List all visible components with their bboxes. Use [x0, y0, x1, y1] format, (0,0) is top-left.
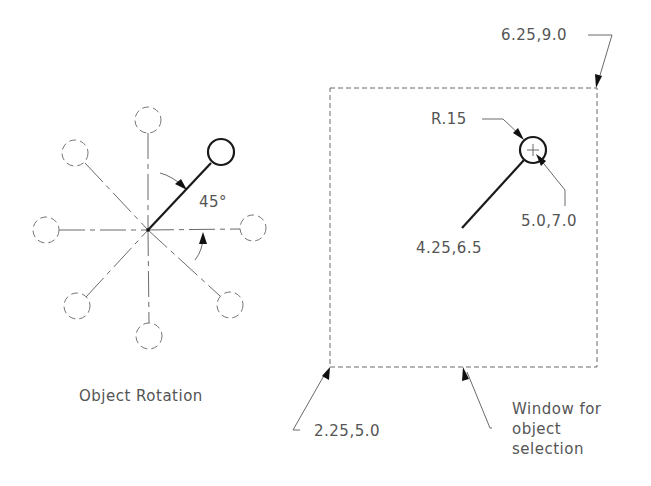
window-label-line-3: selection [512, 440, 584, 458]
leader-top-right [588, 35, 612, 82]
window-label-line-2: object [512, 420, 561, 438]
radius-label: R.15 [431, 110, 467, 128]
arrowhead-icon [322, 367, 330, 380]
rotated-object-circle [208, 139, 234, 165]
window-selection-figure: 6.25,9.0 R.15 5.0,7.0 4.25,6.5 2.25,5.0 … [293, 26, 612, 458]
reference-circle-east [240, 215, 266, 241]
centerline-south [148, 230, 149, 323]
line-start-label: 4.25,6.5 [416, 239, 482, 257]
bottom-left-corner-label: 2.25,5.0 [314, 422, 380, 440]
arrowhead-icon [595, 74, 602, 88]
centerline-northwest [85, 163, 148, 230]
centerline-southeast [148, 230, 220, 296]
object-line [462, 160, 524, 228]
reference-circle-northwest [62, 140, 88, 166]
object-rotation-caption: Object Rotation [79, 387, 203, 405]
centerline-east [148, 229, 240, 230]
reference-circle-north [135, 107, 161, 133]
pivot-point [146, 228, 150, 232]
leader-window-label [467, 372, 492, 428]
reference-circle-west [33, 217, 59, 243]
circle-center-label: 5.0,7.0 [521, 212, 577, 230]
leader-center [540, 159, 565, 206]
arrowhead-icon [199, 232, 207, 244]
object-rotation-figure: 45° Object Rotation [33, 107, 266, 405]
reference-circle-southeast [217, 292, 243, 318]
top-right-corner-label: 6.25,9.0 [501, 26, 567, 44]
reference-circle-south [136, 323, 162, 349]
window-label-line-1: Window for [512, 400, 602, 418]
angle-label: 45° [199, 193, 227, 211]
cad-drawing-canvas: 45° Object Rotation 6.25,9.0 R.15 5.0,7.… [0, 0, 651, 486]
centerline-southwest [86, 230, 148, 297]
reference-circle-southwest [64, 293, 90, 319]
